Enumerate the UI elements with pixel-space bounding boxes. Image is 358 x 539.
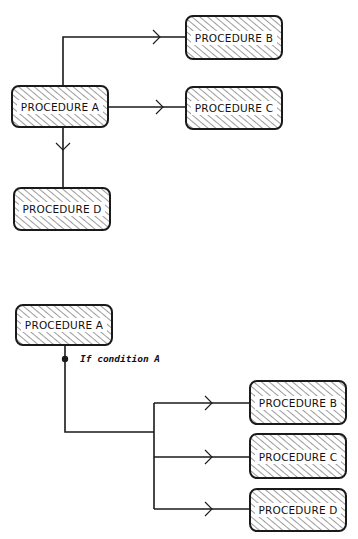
condition-label: If condition A (80, 353, 160, 364)
edge-a-to-junction (65, 360, 154, 432)
node-label: PROCEDURE C (259, 451, 337, 463)
node-label: PROCEDURE D (258, 504, 337, 516)
condition-dot-icon (62, 356, 68, 362)
node-label: PROCEDURE D (22, 203, 101, 215)
node-label: PROCEDURE B (195, 32, 273, 44)
bottom-node-procedure-d[interactable]: PROCEDURE D (250, 489, 346, 531)
bottom-diagram: If condition A PROCEDURE A PROCEDURE B P… (16, 305, 346, 531)
top-node-procedure-a[interactable]: PROCEDURE A (12, 86, 108, 127)
diagram-canvas: PROCEDURE A PROCEDURE B PROCEDURE C PROC… (0, 0, 358, 539)
top-diagram: PROCEDURE A PROCEDURE B PROCEDURE C PROC… (12, 16, 282, 230)
bottom-connectors (65, 345, 250, 516)
bottom-node-procedure-c[interactable]: PROCEDURE C (250, 434, 346, 478)
top-node-procedure-d[interactable]: PROCEDURE D (14, 188, 110, 230)
node-label: PROCEDURE A (25, 319, 104, 331)
bottom-node-procedure-b[interactable]: PROCEDURE B (250, 381, 346, 424)
top-node-procedure-c[interactable]: PROCEDURE C (186, 87, 282, 129)
node-label: PROCEDURE C (195, 102, 273, 114)
bottom-node-procedure-a[interactable]: PROCEDURE A (16, 305, 112, 345)
node-label: PROCEDURE B (259, 397, 337, 409)
edge-a-to-b (63, 37, 186, 86)
top-node-procedure-b[interactable]: PROCEDURE B (186, 16, 282, 59)
node-label: PROCEDURE A (21, 101, 100, 113)
